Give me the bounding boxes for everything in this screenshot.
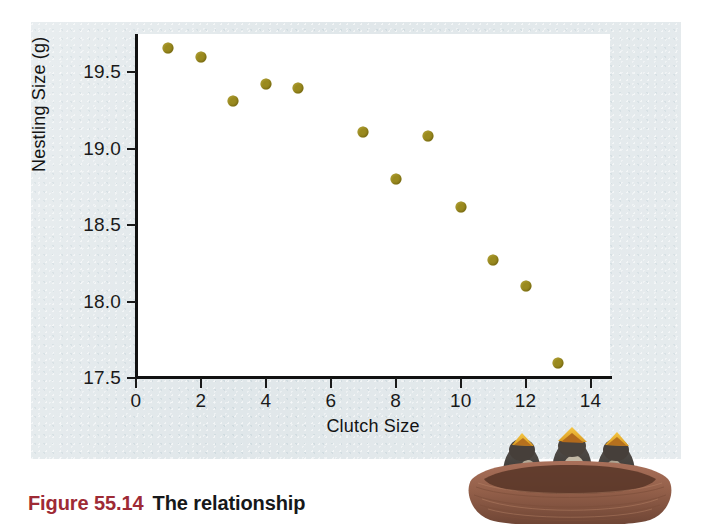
y-tick-18.5: 18.5 [127, 224, 136, 226]
x-tick-label: 0 [131, 390, 142, 412]
data-point [423, 131, 434, 142]
x-tick-label: 8 [390, 390, 401, 412]
data-point [293, 82, 304, 93]
x-tick-label: 12 [515, 390, 537, 412]
figure-caption: Figure 55.14The relationship [28, 492, 305, 515]
y-tick-19.0: 19.0 [127, 148, 136, 150]
x-tick-label: 2 [196, 390, 207, 412]
x-tick-label: 4 [260, 390, 271, 412]
x-tick-2: 2 [200, 378, 202, 388]
data-point [228, 96, 239, 107]
nestling-birds-photo [444, 417, 696, 524]
x-tick-4: 4 [265, 378, 267, 388]
x-tick-6: 6 [330, 378, 332, 388]
data-point [358, 126, 369, 137]
figure-panel: Nestling Size (g) Clutch Size 17.518.018… [31, 22, 681, 459]
data-point [195, 51, 206, 62]
figure-number: Figure 55.14 [28, 492, 144, 514]
y-tick-label: 17.5 [83, 367, 121, 389]
figure-caption-text: The relationship [153, 492, 306, 514]
x-tick-0: 0 [135, 378, 137, 388]
data-point [553, 357, 564, 368]
x-tick-label: 14 [580, 390, 602, 412]
y-tick-18.0: 18.0 [127, 301, 136, 303]
plot-area [136, 34, 610, 378]
x-tick-12: 12 [525, 378, 527, 388]
y-axis-title: Nestling Size (g) [29, 37, 50, 172]
data-point [488, 255, 499, 266]
data-point [260, 79, 271, 90]
y-tick-19.5: 19.5 [127, 71, 136, 73]
x-tick-14: 14 [590, 378, 592, 388]
x-tick-label: 6 [325, 390, 336, 412]
data-point [455, 201, 466, 212]
x-tick-label: 10 [450, 390, 472, 412]
y-axis-line [135, 34, 138, 379]
y-tick-label: 19.5 [83, 61, 121, 83]
data-point [390, 174, 401, 185]
y-tick-label: 19.0 [83, 138, 121, 160]
data-point [520, 281, 531, 292]
y-tick-label: 18.0 [83, 291, 121, 313]
y-tick-label: 18.5 [83, 214, 121, 236]
data-point [163, 42, 174, 53]
x-axis-line [135, 376, 612, 379]
x-tick-8: 8 [395, 378, 397, 388]
x-tick-10: 10 [460, 378, 462, 388]
